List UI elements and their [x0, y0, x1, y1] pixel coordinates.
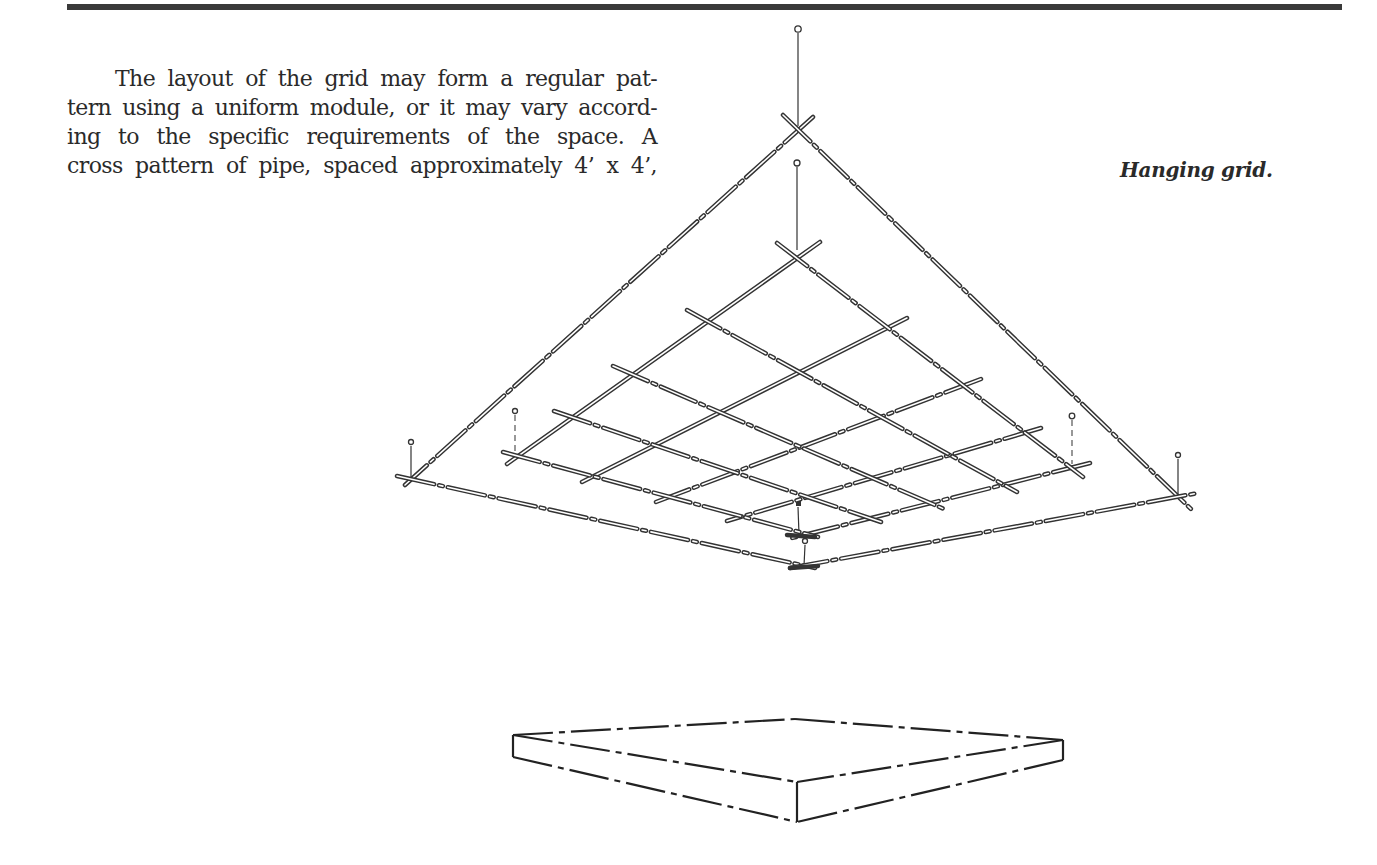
stage-platform	[513, 719, 1063, 822]
inner-grid-bars-b	[503, 243, 1083, 537]
suspension-wires	[411, 33, 1178, 566]
hook-rings	[409, 26, 1181, 544]
hanging-grid-illustration	[0, 0, 1377, 865]
